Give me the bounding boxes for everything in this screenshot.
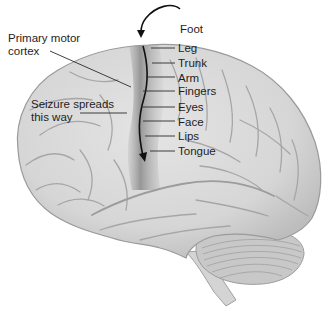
label-seizure-spreads: Seizure spreads this way <box>31 98 114 123</box>
label-leg: Leg <box>178 42 197 54</box>
label-tongue: Tongue <box>178 145 216 157</box>
label-lips: Lips <box>178 130 199 142</box>
label-primary-motor-cortex: Primary motor cortex <box>8 32 80 57</box>
label-fingers: Fingers <box>178 85 216 97</box>
label-foot: Foot <box>180 23 203 35</box>
label-line: cortex <box>8 45 80 58</box>
label-eyes: Eyes <box>178 101 204 113</box>
label-line: this way <box>31 111 114 124</box>
label-trunk: Trunk <box>178 57 207 69</box>
label-line: Seizure spreads <box>31 98 114 111</box>
label-arm: Arm <box>178 72 199 84</box>
label-face: Face <box>178 116 204 128</box>
arrow-head-top <box>137 30 145 38</box>
label-line: Primary motor <box>8 32 80 45</box>
brain-diagram: Primary motor cortex Seizure spreads thi… <box>0 0 328 311</box>
